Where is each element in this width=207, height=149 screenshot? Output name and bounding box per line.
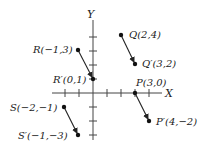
point-r (76, 48, 80, 52)
label-p: P(3,0) (135, 77, 167, 88)
label-p-prime: P′(4,−2) (155, 116, 197, 127)
point-q (119, 33, 123, 37)
label-s: S(−2,−1) (10, 102, 57, 113)
y-axis-label: Y (87, 8, 96, 21)
arrow-p (135, 93, 148, 119)
label-s-prime: S′(−1,−3) (18, 130, 68, 141)
point-p (133, 91, 137, 95)
label-q-prime: Q′(3,2) (142, 58, 176, 69)
point-q-prime (133, 62, 137, 66)
point-s (62, 105, 66, 109)
label-q: Q(2,4) (129, 29, 161, 40)
point-s-prime (76, 133, 80, 137)
arrow-r (78, 50, 92, 77)
coordinate-diagram: X Y Q(2,4) Q′(3,2) R(−1,3) R′(0,1) P(3,0… (0, 0, 207, 149)
point-r-prime (91, 77, 95, 81)
x-axis-label: X (164, 87, 174, 100)
label-r-prime: R′(0,1) (52, 74, 87, 85)
point-p-prime (147, 119, 151, 123)
label-r: R(−1,3) (32, 44, 73, 55)
